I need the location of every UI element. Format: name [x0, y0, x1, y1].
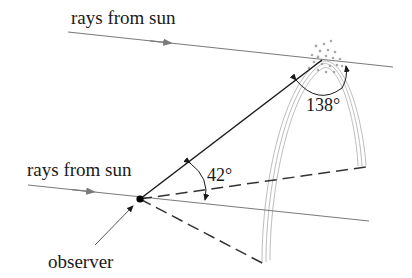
observer-point	[136, 195, 143, 202]
label-observer: observer	[48, 252, 113, 271]
arrow-icon	[72, 190, 91, 192]
line-of-sight-dashed-lower	[140, 199, 266, 265]
rainbow-diagram: rays from sun rays from sun observer 42°…	[0, 0, 412, 278]
label-rays-from-sun-top: rays from sun	[71, 8, 175, 27]
rainbow-arc	[262, 61, 366, 262]
label-rays-from-sun-bottom: rays from sun	[27, 160, 131, 179]
arrow-icon	[150, 41, 168, 43]
sun-ray-top	[68, 32, 393, 67]
line-of-sight-dashed-upper	[140, 167, 366, 199]
label-angle-138: 138°	[306, 96, 340, 114]
label-angle-42: 42°	[207, 166, 232, 184]
angle-arc-42	[190, 163, 206, 200]
diagram-canvas	[0, 0, 412, 278]
observer-pointer-arrow	[95, 206, 133, 245]
